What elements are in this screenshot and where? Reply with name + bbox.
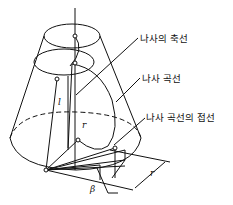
point-base [44,168,48,172]
point-mid [73,61,77,65]
symbol-radius-dim: r [150,168,155,178]
cone-left-side [10,36,44,138]
symbol-angle: β [89,184,95,194]
leader-curve [116,78,140,102]
middle-ellipse [34,49,94,75]
vertical-line-2 [68,64,72,150]
conical-helix-diagram: 나사의 축선 나사 곡선 나사 곡선의 접선 l r r β [0,0,233,205]
label-screw-curve: 나사 곡선 [142,73,181,84]
tangent-fan [46,140,125,170]
point-tangent [113,146,117,150]
vertical-line-1 [46,79,57,170]
point-left [55,77,59,81]
point-lower [76,138,80,142]
radius-dim-ext1 [110,150,170,162]
symbol-radius-small: r [82,120,87,130]
screw-curve [70,36,115,149]
label-tangent: 나사 곡선의 접선 [146,112,215,123]
top-ellipse [44,24,100,48]
symbol-length: l [58,97,61,107]
label-screw-axis: 나사의 축선 [140,33,188,44]
point-top [73,34,77,38]
